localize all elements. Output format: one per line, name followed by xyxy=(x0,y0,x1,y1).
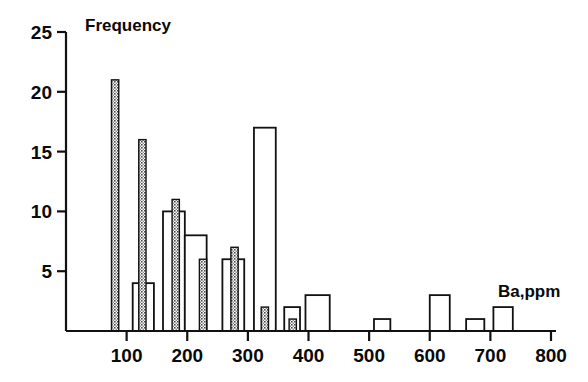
histogram-bar-open xyxy=(493,307,512,331)
x-axis-tick-label: 500 xyxy=(353,345,385,366)
y-axis-tick-label: 15 xyxy=(31,142,53,163)
histogram-bar-open xyxy=(466,319,484,331)
y-axis-tick-label: 25 xyxy=(31,22,53,43)
histogram-bar-shaded xyxy=(172,199,179,331)
histogram-plot: 510152025100200300400500600700800 Freque… xyxy=(0,0,588,382)
histogram-bar-open xyxy=(374,319,390,331)
x-axis-tick-label: 600 xyxy=(414,345,446,366)
ticks-layer xyxy=(57,32,551,341)
x-axis-tick-label: 300 xyxy=(232,345,264,366)
histogram-bar-shaded xyxy=(231,247,238,331)
x-axis-tick-label: 100 xyxy=(111,345,143,366)
x-axis-title: Ba,ppm xyxy=(498,282,560,301)
x-axis-tick-label: 400 xyxy=(293,345,325,366)
histogram-bar-shaded xyxy=(199,259,206,331)
x-axis-tick-label: 200 xyxy=(171,345,203,366)
bars-layer xyxy=(111,80,512,331)
x-axis-tick-label: 800 xyxy=(535,345,567,366)
x-axis-tick-label: 700 xyxy=(475,345,507,366)
y-axis-tick-label: 20 xyxy=(31,82,52,103)
y-axis-title: Frequency xyxy=(85,16,172,35)
y-axis-tick-label: 10 xyxy=(31,201,52,222)
y-axis-tick-label: 5 xyxy=(41,261,52,282)
histogram-bar-open xyxy=(254,128,276,331)
histogram-bar-shaded xyxy=(261,307,268,331)
histogram-bar-open xyxy=(305,295,329,331)
histogram-bar-shaded xyxy=(111,80,118,331)
histogram-figure: 510152025100200300400500600700800 Freque… xyxy=(0,0,588,382)
histogram-bar-shaded xyxy=(289,319,296,331)
histogram-bar-open xyxy=(430,295,450,331)
histogram-bar-shaded xyxy=(139,140,146,331)
